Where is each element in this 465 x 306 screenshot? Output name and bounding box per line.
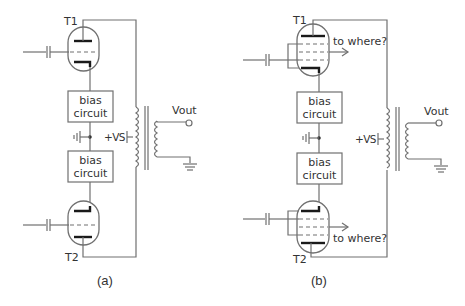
t2-coupling-capacitor-icon — [47, 219, 50, 231]
output-terminal — [186, 120, 192, 126]
secondary-ground-wire — [408, 159, 441, 165]
output-label: Vout — [424, 105, 449, 118]
bias-top-label-2: circuit — [74, 107, 108, 120]
caption-b: (b) — [311, 273, 327, 288]
tube-t1-label: T1 — [63, 15, 78, 28]
bias-bottom-label-2: circuit — [74, 167, 108, 180]
tube-t1-label: T1 — [292, 14, 307, 27]
output-transformer-icon — [387, 107, 408, 171]
t1-coupling-capacitor-icon — [47, 46, 50, 58]
tube-t2-label: T2 — [64, 251, 79, 264]
supply-label: +VS — [104, 131, 126, 143]
bias-bottom-label-1: bias — [308, 156, 331, 169]
bias-bottom-label-2: circuit — [303, 169, 337, 182]
bias-bottom-label-1: bias — [79, 154, 102, 167]
t2-coupling-capacitor-icon — [266, 213, 269, 225]
bias-top-label-1: bias — [79, 94, 102, 107]
t1-coupling-capacitor-icon — [266, 54, 269, 66]
ground-icon — [183, 164, 197, 170]
ground-icon — [303, 132, 319, 144]
t1-screen-label: to where? — [333, 35, 387, 48]
push-pull-amplifier-diagram: T1 bias circuit bias circuit — [0, 0, 465, 306]
output-transformer-icon — [136, 106, 157, 170]
tube-t2-pentode — [297, 201, 329, 253]
bias-top-label-2: circuit — [303, 108, 337, 121]
tube-t2-label: T2 — [292, 253, 307, 266]
caption-a: (a) — [97, 273, 113, 288]
output-terminal — [436, 120, 442, 126]
ground-icon — [74, 131, 90, 143]
t2-screen-label: to where? — [333, 232, 387, 245]
output-label: Vout — [172, 104, 197, 117]
secondary-ground-wire — [157, 157, 190, 163]
panel-b: T1 to where? bias circuit bias circuit — [243, 14, 449, 288]
supply-label: +VS — [355, 133, 377, 145]
panel-a: T1 bias circuit bias circuit — [23, 15, 197, 288]
bias-top-label-1: bias — [308, 95, 331, 108]
output-wire — [157, 121, 186, 122]
ground-icon — [434, 166, 448, 172]
